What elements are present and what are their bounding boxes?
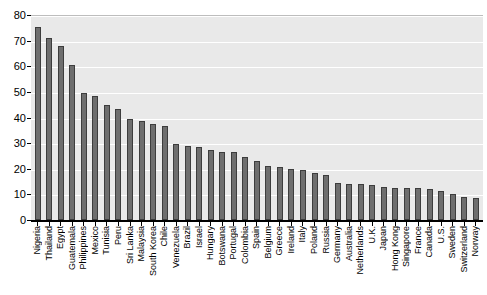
bar-slot	[401, 16, 413, 220]
x-axis-tick-label: Botswana	[218, 226, 227, 266]
bar-slot	[44, 16, 56, 220]
bar[interactable]	[404, 188, 410, 220]
bar[interactable]	[69, 65, 75, 220]
bar[interactable]	[254, 161, 260, 220]
bar[interactable]	[461, 197, 467, 220]
bar[interactable]	[231, 152, 237, 220]
bar-slot	[147, 16, 159, 220]
x-axis-tick-label: Thailand	[45, 226, 54, 261]
bar-slot	[447, 16, 459, 220]
x-axis-tick-label: Nigeria	[33, 226, 42, 255]
bar[interactable]	[450, 194, 456, 220]
bar[interactable]	[392, 188, 398, 220]
x-axis-label-slot: Hong Kong	[389, 226, 401, 295]
x-axis-tick-label: Australia	[345, 226, 354, 261]
bar[interactable]	[81, 93, 87, 220]
bar-slot	[355, 16, 367, 220]
bar-chart: 01020304050607080 NigeriaThailandEgyptGu…	[0, 0, 487, 295]
bar-slot	[228, 16, 240, 220]
bar-slot	[320, 16, 332, 220]
bar-slot	[297, 16, 309, 220]
bar-slot	[67, 16, 79, 220]
bar[interactable]	[300, 170, 306, 220]
bar[interactable]	[58, 46, 64, 220]
bar-slot	[459, 16, 471, 220]
bar[interactable]	[265, 166, 271, 220]
bar[interactable]	[438, 191, 444, 220]
bar[interactable]	[242, 157, 248, 220]
x-axis-label-slot: South Korea	[147, 226, 159, 295]
bar[interactable]	[288, 169, 294, 220]
bar[interactable]	[115, 109, 121, 220]
bar[interactable]	[219, 152, 225, 220]
bar-slot	[101, 16, 113, 220]
bar[interactable]	[277, 167, 283, 220]
x-axis-label-slot: France	[413, 226, 425, 295]
x-axis-tick-label: Hungary	[206, 226, 215, 260]
bar[interactable]	[346, 184, 352, 220]
bar-slot	[413, 16, 425, 220]
bar[interactable]	[92, 96, 98, 220]
x-axis-label-slot: Nigeria	[32, 226, 44, 295]
x-axis-label-slot: Venezuela	[170, 226, 182, 295]
bar[interactable]	[46, 38, 52, 220]
bar[interactable]	[312, 173, 318, 220]
x-axis-label-slot: Botswana	[217, 226, 229, 295]
x-axis-tick-label: Malaysia	[137, 226, 146, 262]
x-axis-label-slot: Russia	[320, 226, 332, 295]
bar[interactable]	[358, 184, 364, 220]
y-axis-tick-label: 50	[14, 86, 26, 97]
x-axis-tick-label: Switzerland	[460, 226, 469, 273]
bar-slot	[436, 16, 448, 220]
bar[interactable]	[196, 147, 202, 220]
bar[interactable]	[185, 146, 191, 220]
bar-slot	[274, 16, 286, 220]
y-axis-tick-label: 60	[14, 61, 26, 72]
x-axis-tick-label: U.K.	[368, 226, 377, 244]
bar[interactable]	[323, 175, 329, 220]
bar[interactable]	[162, 126, 168, 220]
bar-slot	[378, 16, 390, 220]
bar[interactable]	[427, 189, 433, 220]
bar[interactable]	[381, 187, 387, 220]
y-axis-tick-label: 10	[14, 189, 26, 200]
bar-slot	[263, 16, 275, 220]
x-axis-tick-label: Sweden	[448, 226, 457, 259]
x-axis-tick-label: Israel	[195, 226, 204, 248]
x-axis-label-slot: Thailand	[44, 226, 56, 295]
x-axis-tick-label: Guatemala	[68, 226, 77, 270]
x-axis-label-slot: Sri Lanka	[124, 226, 136, 295]
bar[interactable]	[104, 105, 110, 220]
bar-slot	[205, 16, 217, 220]
x-axis-tick-label: South Korea	[149, 226, 158, 276]
y-axis-tick-label: 70	[14, 35, 26, 46]
bar[interactable]	[208, 150, 214, 220]
bar-slot	[113, 16, 125, 220]
bar[interactable]	[35, 27, 41, 220]
x-axis-label-slot: Sweden	[447, 226, 459, 295]
x-axis-tick-label: Hong Kong	[391, 226, 400, 271]
x-axis-label-slot: Guatemala	[67, 226, 79, 295]
bar[interactable]	[415, 188, 421, 220]
x-axis-tick-label: Netherlands	[356, 226, 365, 275]
bar[interactable]	[139, 121, 145, 220]
bar[interactable]	[150, 124, 156, 220]
x-axis-tick-label: Poland	[310, 226, 319, 254]
bar[interactable]	[173, 144, 179, 220]
bar[interactable]	[335, 183, 341, 220]
x-axis-label-slot: Germany	[332, 226, 344, 295]
bar[interactable]	[369, 185, 375, 220]
x-axis-tick-label: Colombia	[241, 226, 250, 264]
x-axis-tick-label: Brazil	[183, 226, 192, 249]
y-axis-tick-label: 20	[14, 163, 26, 174]
y-axis: 01020304050607080	[0, 0, 30, 225]
x-axis-label-slot: U.S.	[436, 226, 448, 295]
x-axis-tick-label: Russia	[322, 226, 331, 254]
bar[interactable]	[127, 119, 133, 220]
plot-area	[31, 15, 483, 220]
x-axis-tick-label: Tunisia	[102, 226, 111, 255]
x-axis-label-slot: Australia	[343, 226, 355, 295]
bars-container	[31, 16, 483, 220]
bar[interactable]	[473, 198, 479, 220]
bar-slot	[217, 16, 229, 220]
